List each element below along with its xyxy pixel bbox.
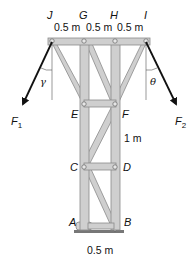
member-AB <box>88 223 114 229</box>
joint-label-d: D <box>123 161 131 173</box>
member-top-chord <box>48 38 150 45</box>
angle-gamma: γ <box>40 76 46 87</box>
joint-label-f: F <box>122 108 130 120</box>
joint-label-h: H <box>110 9 118 21</box>
force-f1-arrow <box>23 42 52 104</box>
force-label-f1: F1 <box>11 115 23 130</box>
theta-arc <box>146 68 157 70</box>
dim-top-1: 0.5 m <box>54 21 81 33</box>
dim-panel-height: 1 m <box>124 132 142 144</box>
joint-label-e: E <box>71 108 79 120</box>
dim-base-width: 0.5 m <box>87 244 114 256</box>
joint-label-a: A <box>68 216 76 228</box>
truss-figure: J G H I 0.5 m 0.5 m 0.5 m γ θ E F 1 m C … <box>0 0 196 264</box>
member-EF <box>84 100 116 107</box>
joint-label-c: C <box>70 161 78 173</box>
dim-top-3: 0.5 m <box>117 21 144 33</box>
force-f2-arrow <box>146 42 176 104</box>
force-label-f2: F2 <box>175 115 187 130</box>
joint-label-g: G <box>79 9 88 21</box>
joint-label-b: B <box>124 216 131 228</box>
member-HB-vertical <box>111 40 120 230</box>
joint-label-j: J <box>46 9 53 21</box>
gamma-arc <box>41 68 52 70</box>
truss-diagram: J G H I 0.5 m 0.5 m 0.5 m γ θ E F 1 m C … <box>0 0 196 264</box>
member-GA-vertical <box>80 40 89 230</box>
dim-top-2: 0.5 m <box>86 21 113 33</box>
joint-label-i: I <box>144 9 147 21</box>
member-CD <box>84 163 116 170</box>
angle-theta: θ <box>150 76 156 87</box>
